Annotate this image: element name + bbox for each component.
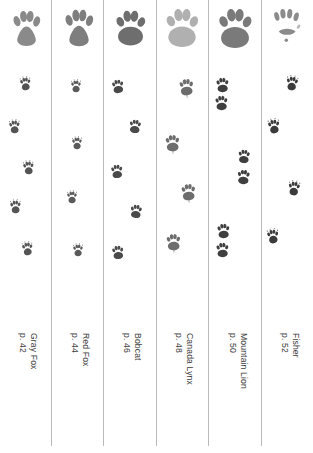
trail-paw-print-icon-gray-fox-2	[7, 119, 21, 136]
species-page-reference: p. 46	[122, 333, 133, 361]
trail-paw-print-icon-fisher-4	[265, 227, 281, 246]
species-page-reference: p. 42	[18, 333, 29, 370]
trail-paw-print-icon-red-fox-3	[66, 190, 79, 206]
hero-paw-print-icon-mountain-lion	[216, 5, 254, 52]
trail-paw-print-icon-red-fox-1	[70, 79, 83, 95]
trail-paw-print-icon-gray-fox-5	[20, 240, 35, 258]
hero-paw-print-icon-bobcat	[113, 7, 148, 49]
track-column-fisher: Fisherp. 52	[261, 0, 313, 453]
track-column-red-fox: Red Foxp. 44	[52, 0, 103, 453]
species-name: Fisher	[291, 333, 302, 358]
trail-paw-print-icon-fisher-3	[286, 179, 302, 198]
trail-paw-print-icon-fisher-1	[284, 74, 300, 93]
trail-paw-print-icon-bobcat-2	[127, 117, 143, 136]
trail-paw-print-icon-bobcat-3	[109, 162, 125, 181]
trail-paw-print-icon-red-fox-2	[71, 136, 84, 152]
trail-paw-print-icon-gray-fox-3	[21, 159, 35, 177]
animal-track-chart: Gray Foxp. 42Red Foxp. 44Bobcatp. 46Cana…	[0, 0, 313, 453]
species-page-reference: p. 52	[280, 333, 291, 358]
trail-paw-print-icon-canada-lynx-4	[164, 232, 182, 255]
trail-paw-print-icon-mountain-lion-3	[237, 148, 252, 167]
species-name: Red Fox	[81, 333, 92, 367]
species-name: Gray Fox	[29, 333, 40, 370]
trail-paw-print-icon-bobcat-5	[110, 243, 126, 262]
trail-paw-print-icon-mountain-lion-5	[216, 222, 232, 242]
trail-paw-print-icon-mountain-lion-4	[236, 168, 252, 188]
trail-paw-print-icon-bobcat-1	[110, 77, 126, 97]
trail-paw-print-icon-mountain-lion-2	[214, 94, 230, 114]
trail-paw-print-icon-mountain-lion-1	[215, 76, 231, 96]
species-name: Bobcat	[133, 333, 144, 361]
trail-paw-print-icon-fisher-2	[266, 117, 282, 137]
species-name: Mountain Lion	[239, 333, 250, 389]
hero-paw-print-icon-gray-fox	[10, 8, 43, 50]
trail-paw-print-icon-mountain-lion-6	[215, 241, 231, 261]
track-column-bobcat: Bobcatp. 46	[104, 0, 155, 453]
hero-paw-print-icon-fisher	[270, 6, 304, 50]
track-column-gray-fox: Gray Foxp. 42	[0, 0, 51, 453]
trail-paw-print-icon-red-fox-4	[72, 243, 85, 259]
species-page-reference: p. 44	[70, 333, 81, 367]
track-column-mountain-lion: Mountain Lionp. 50	[208, 0, 261, 453]
hero-paw-print-icon-canada-lynx	[163, 5, 201, 51]
trail-paw-print-icon-gray-fox-4	[9, 199, 23, 216]
trail-paw-print-icon-canada-lynx-2	[163, 133, 181, 156]
species-name: Canada Lynx	[185, 333, 196, 385]
trail-paw-print-icon-canada-lynx-3	[179, 181, 197, 204]
track-column-canada-lynx: Canada Lynxp. 48	[156, 0, 207, 453]
hero-paw-print-icon-red-fox	[62, 6, 96, 51]
trail-paw-print-icon-bobcat-4	[128, 202, 144, 221]
species-page-reference: p. 50	[228, 333, 239, 389]
trail-paw-print-icon-gray-fox-1	[18, 75, 33, 93]
species-page-reference: p. 48	[174, 333, 185, 385]
trail-paw-print-icon-canada-lynx-1	[177, 76, 195, 99]
